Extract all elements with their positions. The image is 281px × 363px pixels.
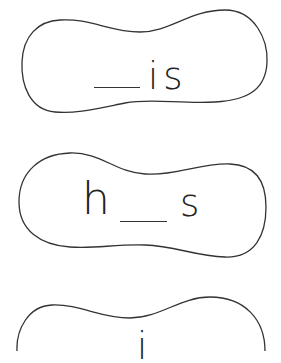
card-1-blank[interactable]	[94, 87, 140, 88]
card-2-blank[interactable]	[120, 221, 167, 222]
card-2-letter-h: h	[82, 177, 110, 221]
card-2-letter-s: s	[180, 185, 199, 222]
card-3-letter-i: i	[137, 328, 147, 363]
card-1-letters: is	[148, 58, 188, 95]
card-1-outline	[22, 10, 267, 112]
card-2-outline	[19, 153, 266, 257]
